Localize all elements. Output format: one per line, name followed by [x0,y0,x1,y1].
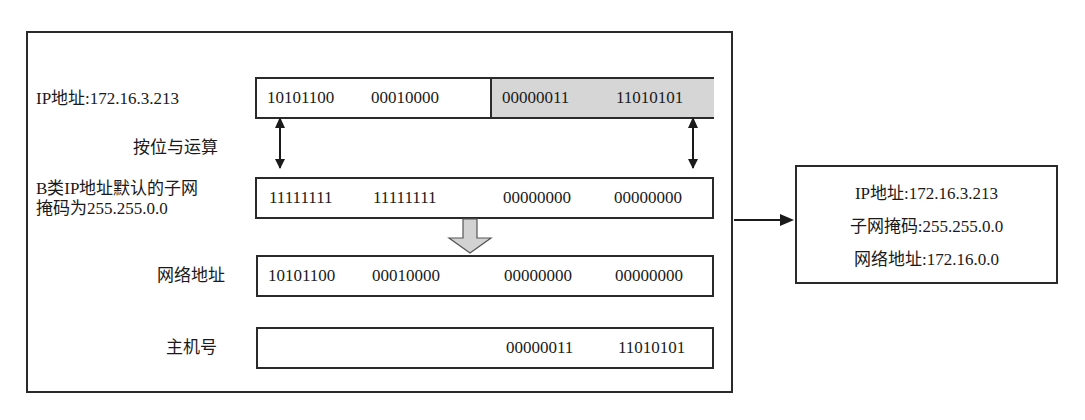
bitwise-and-arrow-right-icon [688,117,698,168]
summary-network-address: 网络地址:172.16.0.0 [854,245,999,270]
summary-arrow-icon [734,214,794,226]
result-down-arrow-icon [449,219,491,253]
summary-box: IP地址:172.16.3.213 子网掩码:255.255.0.0 网络地址:… [795,165,1058,284]
summary-ip-address: IP地址:172.16.3.213 [855,179,998,204]
bitwise-and-arrow-left-icon [275,117,285,168]
summary-subnet-mask: 子网掩码:255.255.0.0 [850,212,1003,237]
